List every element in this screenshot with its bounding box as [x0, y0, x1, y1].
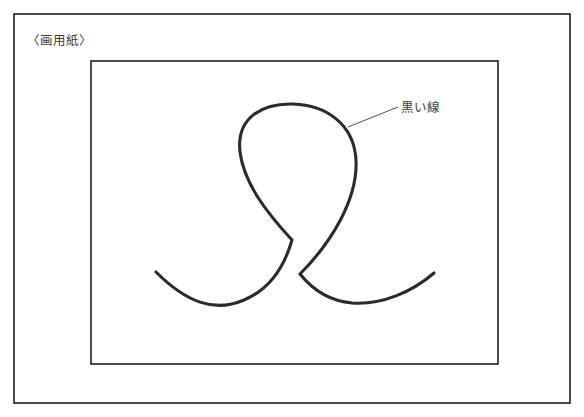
paper-label: 〈画用紙〉 — [27, 33, 92, 48]
figure-canvas: 黒い線 〈画用紙〉 — [0, 0, 584, 417]
outer-border — [14, 14, 570, 403]
black-line-label: 黒い線 — [401, 100, 440, 115]
drawing-figure-svg: 黒い線 〈画用紙〉 — [0, 0, 584, 417]
annotation-leader-line — [348, 107, 398, 127]
black-curved-line — [156, 104, 434, 305]
